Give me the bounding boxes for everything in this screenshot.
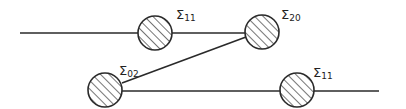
self-energy-node-n2 (245, 15, 279, 49)
edges-group (20, 33, 379, 91)
sigma-11-top-label: Σ11 (176, 8, 196, 23)
diagram-svg (0, 0, 406, 109)
self-energy-node-n3 (88, 73, 122, 107)
diagram-canvas: Σ11 Σ20 Σ02 Σ11 (0, 0, 406, 109)
sigma-20-label: Σ20 (281, 8, 301, 23)
sigma-02-label: Σ02 (119, 64, 139, 79)
self-energy-node-n1 (138, 16, 172, 50)
sigma-11-bottom-label: Σ11 (313, 66, 333, 81)
nodes-group (88, 15, 314, 107)
diagonal (122, 37, 246, 83)
self-energy-node-n4 (280, 73, 314, 107)
